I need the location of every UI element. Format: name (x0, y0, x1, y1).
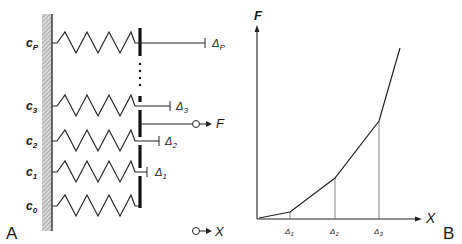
gap-rod-3 (138, 101, 170, 111)
tick-delta-2: Δ2 (329, 227, 339, 237)
displacement-arrow (193, 228, 213, 235)
panel-a-label: A (6, 224, 18, 243)
drop-lines (290, 121, 379, 219)
gap-rod-2 (138, 136, 159, 146)
label-delta-1: Δ1 (154, 166, 167, 181)
tick-delta-3: Δ3 (373, 227, 383, 237)
fixed-wall (42, 14, 52, 231)
y-axis-label: F (254, 8, 263, 23)
label-delta-3: Δ3 (175, 100, 188, 115)
label-cp: cP (26, 36, 39, 52)
gap-rod-1 (138, 167, 147, 177)
label-c2: c2 (26, 134, 38, 150)
label-force: F (216, 116, 225, 131)
label-delta-2: Δ2 (164, 135, 177, 150)
spring-c1 (52, 161, 138, 182)
spring-c3 (52, 95, 138, 116)
label-delta-p: ΔP (211, 37, 225, 52)
gap-rod-p (138, 38, 205, 48)
x-axis-arrow-icon (415, 217, 422, 222)
y-axis-arrow-icon (255, 25, 260, 32)
spring-c0 (52, 195, 139, 216)
label-c3: c3 (26, 99, 38, 115)
label-c0: c0 (26, 199, 38, 215)
panel-b-label: B (443, 224, 454, 243)
label-c1: c1 (26, 165, 38, 181)
spring-cp (52, 32, 138, 53)
tick-delta-1: Δ1 (284, 227, 294, 237)
spring-c2 (52, 130, 138, 151)
label-displacement: X (214, 224, 225, 239)
x-axis-label: X (425, 210, 436, 226)
figure: cP c3 c2 c1 c0 ΔP Δ3 Δ2 Δ1 F X A Δ1 Δ2 Δ… (0, 0, 462, 244)
panel-b: Δ1 Δ2 Δ3 F X B (254, 8, 454, 243)
panel-a: cP c3 c2 c1 c0 ΔP Δ3 Δ2 Δ1 F X A (6, 14, 225, 243)
force-arrow (141, 121, 212, 128)
ellipsis-dots (139, 63, 141, 86)
